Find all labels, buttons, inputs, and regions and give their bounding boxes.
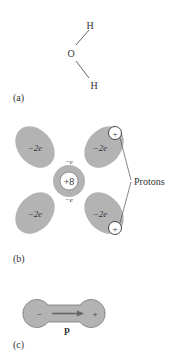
- nucleus-charge: +8: [64, 176, 75, 187]
- panel-a-label: (a): [13, 92, 24, 104]
- lobe-charge-ul: −2e: [28, 143, 43, 153]
- bond-lower: [76, 61, 89, 78]
- panel-c-dipole: − + p (c): [13, 300, 105, 351]
- panel-b-charge-distribution: −2e −2e −2e −2e +8 −e −e + + Protons (b): [7, 118, 164, 265]
- leader-line-bottom: [120, 182, 131, 223]
- atom-h-top: H: [86, 20, 93, 31]
- panel-c-label: (c): [13, 339, 24, 351]
- lobe-charge-lr: −2e: [93, 209, 108, 219]
- atom-h-bottom: H: [90, 80, 97, 91]
- lobe-charge-ll: −2e: [28, 209, 43, 219]
- panel-b-label: (b): [13, 253, 25, 265]
- inner-electron-top: −e: [65, 158, 73, 166]
- plus-end-symbol: +: [92, 309, 97, 319]
- dipole-moment-label: p: [64, 324, 70, 335]
- proton-bottom-symbol: +: [112, 224, 117, 234]
- minus-end-symbol: −: [36, 309, 41, 319]
- atom-o: O: [67, 48, 74, 59]
- inner-electron-bottom: −e: [65, 196, 73, 204]
- bond-upper: [76, 30, 89, 45]
- protons-label: Protons: [134, 176, 165, 187]
- panel-a-water-molecule: H O H (a): [13, 20, 98, 104]
- proton-top-symbol: +: [112, 129, 117, 139]
- lobe-charge-ur: −2e: [93, 143, 108, 153]
- leader-line-top: [120, 138, 131, 180]
